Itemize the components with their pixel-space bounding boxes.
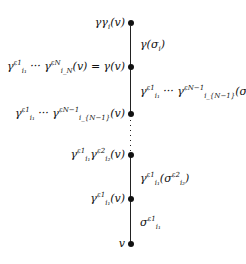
edge-label-4: σε1i₁ xyxy=(140,216,161,230)
vertex-dot-5 xyxy=(128,241,134,247)
edge-label-0: γ(σi) xyxy=(140,38,165,52)
vertex-label-5: v xyxy=(119,237,125,251)
vertex-label-0: γγi(v) xyxy=(95,16,125,30)
edge-v1-v2 xyxy=(130,70,131,115)
vertex-dot-3 xyxy=(128,152,134,158)
vertex-dot-0 xyxy=(128,20,134,26)
edge-v4-v5 xyxy=(130,200,131,245)
edge-v2-v3-dotted xyxy=(130,120,131,152)
edge-label-1: γε1i₁ ··· γεN−1i_{N−1}(σεNi_N) xyxy=(140,85,246,99)
vertex-label-2: γε1i₁ ··· γεN−1i_{N−1}(v) xyxy=(15,107,125,121)
edge-v3-v4 xyxy=(130,156,131,201)
vertex-dot-1 xyxy=(128,64,134,70)
vertex-dot-2 xyxy=(128,111,134,117)
vertex-label-1: γε1i₁ ··· γεNi_N(v) = γ(v) xyxy=(7,60,125,74)
vertex-label-4: γε1i₁(v) xyxy=(90,192,125,206)
vertex-dot-4 xyxy=(128,196,134,202)
vertex-label-3: γε1i₁γε2i₂(v) xyxy=(71,148,126,162)
edge-label-3: γε1i₁(σε2i₂) xyxy=(140,172,189,186)
